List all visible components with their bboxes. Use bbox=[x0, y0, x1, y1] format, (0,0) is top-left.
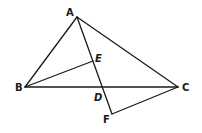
label-d: D bbox=[94, 92, 102, 103]
label-e: E bbox=[95, 53, 102, 64]
label-c: C bbox=[182, 82, 189, 93]
segment-cf bbox=[112, 87, 178, 114]
label-f: F bbox=[103, 114, 110, 125]
geometry-diagram: A B C E D F bbox=[0, 0, 202, 133]
label-a: A bbox=[66, 7, 74, 18]
label-b: B bbox=[15, 82, 23, 93]
segment-ac bbox=[77, 17, 178, 87]
